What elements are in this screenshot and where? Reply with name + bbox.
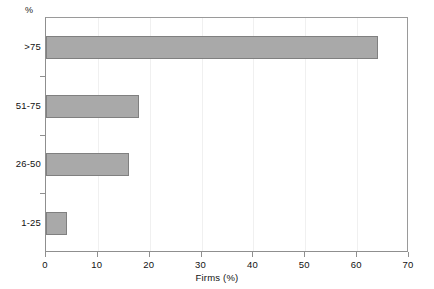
bar [46, 95, 139, 118]
bar [46, 153, 129, 176]
y-axis-unit-label: % [25, 5, 33, 15]
y-axis-category-label: >75 [24, 41, 41, 52]
x-axis-tick-label: 30 [195, 259, 206, 270]
x-axis-tick-label: 70 [403, 259, 414, 270]
bar [46, 212, 67, 235]
x-axis-tick-label: 20 [143, 259, 154, 270]
y-axis-category-label: 1-25 [21, 217, 41, 228]
x-axis-tick [408, 252, 409, 257]
x-axis-tick [97, 252, 98, 257]
x-axis-title: Firms (%) [0, 272, 434, 283]
x-axis-tick [201, 252, 202, 257]
y-axis-tick [40, 193, 45, 194]
x-axis-tick [356, 252, 357, 257]
x-axis-tick-label: 60 [351, 259, 362, 270]
x-axis-tick [304, 252, 305, 257]
x-axis-tick-label: 40 [247, 259, 258, 270]
y-axis-tick [40, 135, 45, 136]
x-axis-tick [45, 252, 46, 257]
bars-layer [46, 18, 407, 251]
y-axis-category-label: 51-75 [16, 100, 41, 111]
y-axis-category-label: 26-50 [16, 158, 41, 169]
plot-area [45, 17, 408, 252]
x-axis-tick-label: 10 [91, 259, 102, 270]
x-axis-tick [252, 252, 253, 257]
x-axis-tick-label: 50 [299, 259, 310, 270]
x-axis-tick [149, 252, 150, 257]
x-axis-tick-label: 0 [42, 259, 47, 270]
y-axis-tick [40, 76, 45, 77]
bar [46, 36, 378, 59]
bar-chart: % >7551-7526-501-25 010203040506070 Firm… [0, 0, 434, 289]
